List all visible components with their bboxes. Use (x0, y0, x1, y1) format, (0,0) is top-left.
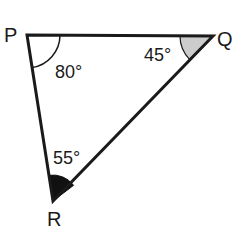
angle-label-q: 45° (144, 45, 171, 65)
angle-label-r: 55° (53, 148, 80, 168)
angle-label-p: 80° (55, 62, 82, 82)
vertex-label-p: P (4, 24, 17, 46)
vertex-label-q: Q (217, 28, 233, 50)
triangle-diagram: P Q R 80° 45° 55° (0, 0, 243, 232)
vertex-label-r: R (47, 208, 61, 230)
